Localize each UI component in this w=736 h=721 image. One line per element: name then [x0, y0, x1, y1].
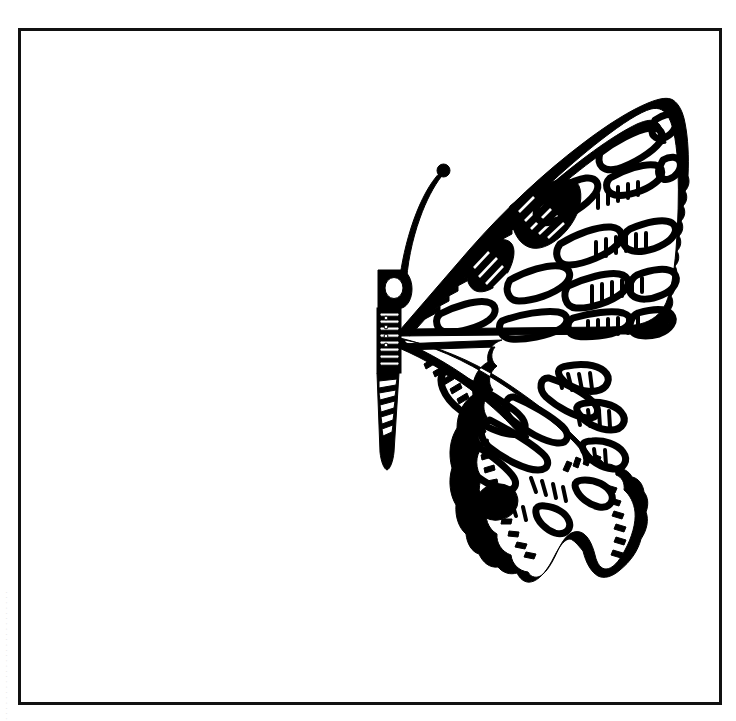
- butterfly-eye: [385, 278, 403, 299]
- antenna-club-icon: [437, 164, 450, 177]
- antenna-icon: [399, 171, 444, 288]
- illustration-page: · · · · · · · · · · · · · · · · · · · · …: [0, 0, 736, 721]
- butterfly-illustration: [0, 0, 736, 721]
